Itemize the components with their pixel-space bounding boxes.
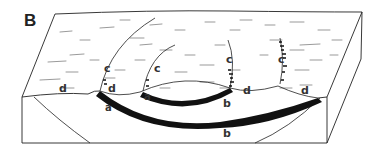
label-b-2: b: [223, 127, 231, 140]
block-diagram: B: [0, 0, 382, 157]
label-a-2: a: [144, 91, 151, 102]
panel-label: B: [24, 11, 36, 30]
label-d-3: d: [243, 84, 251, 97]
label-c-2: c: [154, 62, 161, 75]
surface-hatching: [40, 20, 342, 88]
label-d-4: d: [301, 84, 309, 97]
label-b-1: b: [223, 97, 231, 110]
label-c-4: c: [278, 53, 285, 66]
block-outline: [22, 11, 362, 143]
label-c-1: c: [104, 62, 111, 75]
scarp-shading: [103, 42, 287, 86]
label-d-1: d: [59, 82, 67, 95]
label-a-1: a: [105, 102, 112, 113]
label-c-3: c: [226, 53, 233, 66]
label-d-2: d: [108, 82, 116, 95]
